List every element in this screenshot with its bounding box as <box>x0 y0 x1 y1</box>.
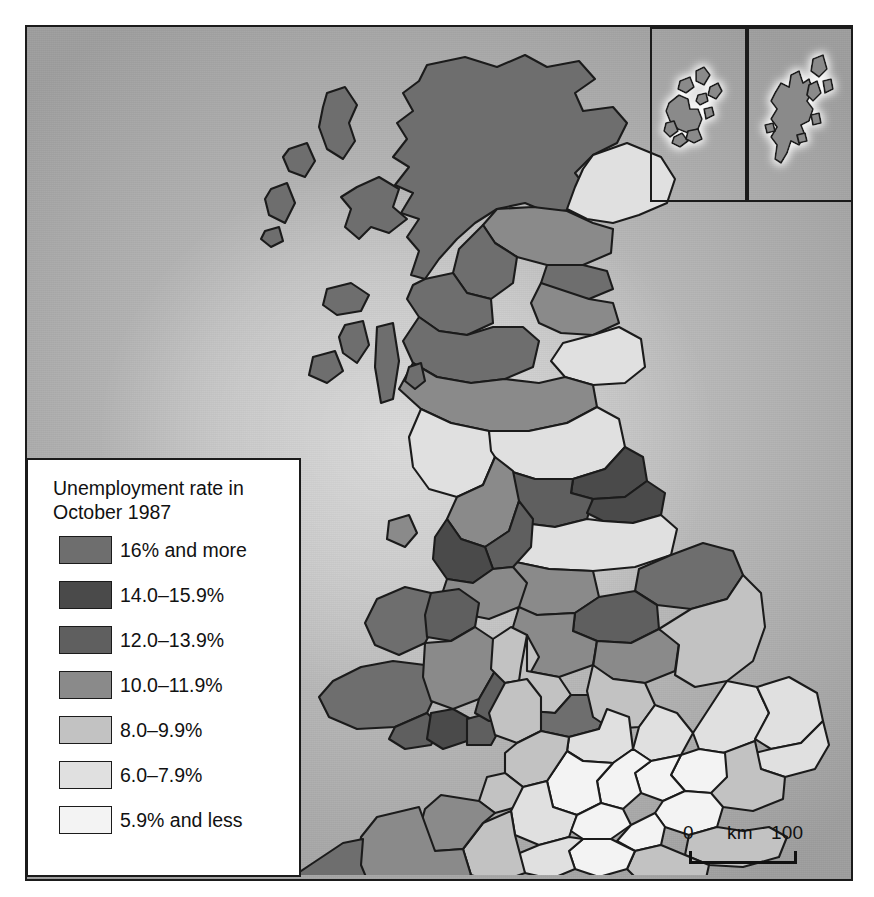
county-isle-of-man <box>387 515 417 547</box>
island-islay <box>309 351 343 383</box>
island-barra <box>261 227 283 247</box>
county-cornwall <box>289 839 371 875</box>
map-page: 0 km 100 Unemployment rate in October 19… <box>0 0 874 897</box>
legend-label: 14.0–15.9% <box>120 584 224 607</box>
legend-title-line-1: Unemployment rate in <box>53 476 288 500</box>
island-mull <box>323 283 369 315</box>
legend-row: 6.0–7.9% <box>59 753 299 797</box>
island-south-uist <box>265 183 295 223</box>
scale-bar-labels: 0 km 100 <box>667 822 817 846</box>
shetland-islands-shapes <box>747 29 851 200</box>
legend-label: 6.0–7.9% <box>120 764 202 787</box>
legend-swatch <box>59 716 112 744</box>
legend-row: 5.9% and less <box>59 798 299 842</box>
legend-items: 16% and more14.0–15.9%12.0–13.9%10.0–11.… <box>59 528 299 843</box>
legend-label: 8.0–9.9% <box>120 719 202 742</box>
legend-row: 10.0–11.9% <box>59 663 299 707</box>
legend-swatch <box>59 536 112 564</box>
legend-title-line-2: October 1987 <box>53 500 288 524</box>
map-legend: Unemployment rate in October 1987 16% an… <box>26 458 301 877</box>
orkney-islands-shapes <box>652 29 747 200</box>
island-north-uist <box>283 143 315 177</box>
legend-swatch <box>59 626 112 654</box>
scale-bar-rule <box>689 851 797 864</box>
legend-swatch <box>59 761 112 789</box>
legend-row: 14.0–15.9% <box>59 573 299 617</box>
legend-label: 12.0–13.9% <box>120 629 224 652</box>
inset-shetland-islands <box>745 27 853 202</box>
legend-label: 5.9% and less <box>120 809 243 832</box>
legend-title: Unemployment rate in October 1987 <box>53 476 288 524</box>
island-lewis-harris <box>319 87 357 159</box>
scale-bar-unit-label: km <box>727 822 753 844</box>
county-cambridgeshire <box>693 681 769 753</box>
county-mid-glamorgan <box>427 709 471 749</box>
legend-row: 16% and more <box>59 528 299 572</box>
scale-bar-zero-label: 0 <box>683 822 694 844</box>
scale-bar-max-label: 100 <box>771 822 803 844</box>
legend-label: 10.0–11.9% <box>120 674 223 697</box>
island-jura <box>339 321 369 363</box>
legend-row: 12.0–13.9% <box>59 618 299 662</box>
legend-swatch <box>59 671 112 699</box>
legend-row: 8.0–9.9% <box>59 708 299 752</box>
scale-bar: 0 km 100 <box>667 822 817 877</box>
legend-swatch <box>59 581 112 609</box>
legend-label: 16% and more <box>120 539 247 562</box>
legend-swatch <box>59 806 112 834</box>
inset-orkney-islands <box>650 27 749 202</box>
peninsula-kintyre <box>375 323 399 403</box>
